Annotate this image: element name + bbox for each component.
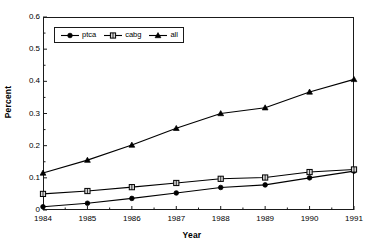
chart-legend: ptcacabgall [54, 27, 184, 43]
y-axis-tick-labels: 00.10.20.30.40.50.6 [10, 0, 40, 250]
y-tick-label: 0.6 [14, 13, 40, 21]
x-tick-label: 1984 [23, 214, 63, 223]
x-tick-label: 1990 [290, 214, 330, 223]
y-tick-label: 0.3 [14, 110, 40, 118]
y-tick-label: 0.5 [14, 45, 40, 53]
triangle-marker-icon [148, 31, 168, 40]
legend-item-cabg[interactable]: cabg [103, 31, 141, 40]
y-tick-label: 0.1 [14, 174, 40, 182]
legend-label: ptca [82, 31, 96, 39]
legend-label: all [170, 31, 178, 39]
y-axis-title: Percent [3, 72, 13, 132]
x-axis-title: Year [0, 230, 384, 240]
legend-item-all[interactable]: all [148, 31, 178, 40]
y-tick-label: 0 [14, 206, 40, 214]
plot-area [43, 17, 354, 210]
x-tick-label: 1988 [201, 214, 241, 223]
circle-marker-icon [60, 31, 80, 40]
x-tick-label: 1987 [156, 214, 196, 223]
y-tick-label: 0.2 [14, 142, 40, 150]
x-tick-label: 1985 [67, 214, 107, 223]
chart-figure: 00.10.20.30.40.50.6 Percent 198419851986… [0, 0, 384, 250]
square-marker-icon [103, 31, 123, 40]
legend-label: cabg [125, 31, 141, 39]
x-tick-label: 1991 [334, 214, 374, 223]
x-axis-tick-labels: 19841985198619871988198919901991 [0, 214, 384, 228]
y-tick-label: 0.4 [14, 77, 40, 85]
x-tick-label: 1986 [112, 214, 152, 223]
legend-item-ptca[interactable]: ptca [60, 31, 96, 40]
x-tick-label: 1989 [245, 214, 285, 223]
